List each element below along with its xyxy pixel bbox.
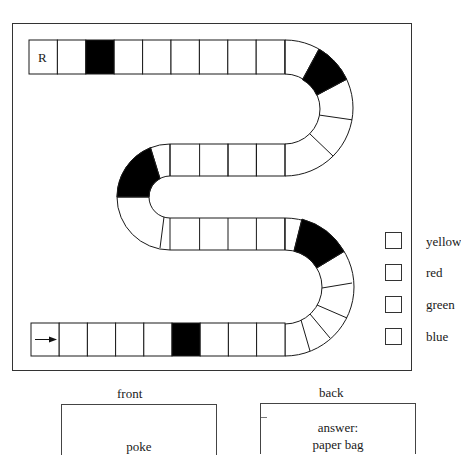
- legend-label-blue: blue: [426, 330, 448, 343]
- legend-checkbox-red[interactable]: [385, 264, 402, 281]
- card-tick-mark: [261, 417, 267, 418]
- back-card-line2: paper bag: [261, 438, 415, 451]
- square: [144, 323, 172, 356]
- square: [143, 40, 171, 74]
- legend-label-yellow: yellow: [426, 235, 461, 248]
- legend-label-red: red: [426, 266, 443, 279]
- square: [171, 40, 199, 74]
- legend-checkbox-blue[interactable]: [385, 328, 402, 345]
- square: [228, 40, 256, 74]
- back-card: answer: paper bag: [260, 403, 416, 454]
- front-card-title: front: [117, 387, 142, 400]
- special-square: [172, 323, 200, 356]
- square: [57, 40, 85, 74]
- square: [257, 323, 285, 356]
- bottom-row: [31, 323, 285, 356]
- right-top-curve: [285, 40, 353, 176]
- back-card-line1: answer:: [261, 421, 415, 434]
- front-card: poke: [61, 404, 217, 455]
- square: [228, 323, 256, 356]
- back-card-title: back: [319, 386, 344, 399]
- square: [114, 40, 142, 74]
- square: [116, 323, 144, 356]
- legend-label-green: green: [426, 298, 455, 311]
- square: [59, 323, 87, 356]
- legend-checkbox-green[interactable]: [385, 296, 402, 313]
- special-square: [86, 40, 114, 74]
- right-bottom-curve: [285, 218, 354, 356]
- left-curve: [117, 144, 170, 250]
- square: [256, 40, 285, 74]
- square: [87, 323, 115, 356]
- square: [200, 323, 228, 356]
- middle-upper-row: [170, 144, 285, 176]
- legend-checkbox-yellow[interactable]: [385, 232, 402, 249]
- front-card-text: poke: [62, 440, 216, 453]
- top-row: [29, 40, 285, 74]
- square: [199, 40, 227, 74]
- middle-lower-row: [170, 218, 285, 250]
- start-square-label: R: [38, 51, 47, 64]
- board-frame: [13, 24, 412, 371]
